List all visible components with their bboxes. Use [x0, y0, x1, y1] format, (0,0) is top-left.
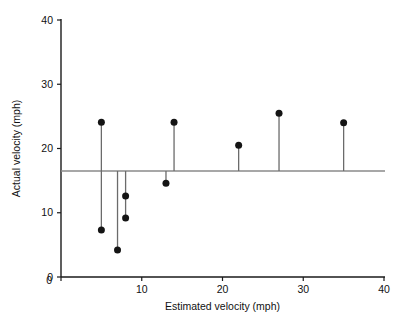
- x-axis-title: Estimated velocity (mph): [165, 300, 280, 312]
- y-axis-title: Actual velocity (mph): [10, 100, 22, 197]
- x-axis-tick-label: 30: [297, 283, 309, 295]
- y-axis-tick-label: 20: [41, 142, 53, 154]
- data-point: [171, 119, 178, 126]
- data-point: [235, 142, 242, 149]
- data-point-markers: [98, 110, 347, 254]
- data-point: [98, 119, 105, 126]
- data-point: [276, 110, 283, 117]
- x-axis-tick-label: 10: [136, 283, 148, 295]
- chart-figure: 010203040 010203040 Estimated velocity (…: [0, 0, 404, 328]
- stem-lines: [101, 113, 343, 250]
- x-axis-tick-label: 40: [378, 283, 390, 295]
- data-point: [122, 214, 129, 221]
- y-axis-tick-label: 30: [41, 78, 53, 90]
- data-point: [340, 119, 347, 126]
- scatter-plot-svg: 010203040 010203040 Estimated velocity (…: [0, 0, 404, 328]
- y-axis-tick-label: 40: [41, 14, 53, 26]
- plot-group: 010203040 010203040 Estimated velocity (…: [10, 14, 390, 313]
- x-axis-tick-label: 20: [217, 283, 229, 295]
- data-point: [122, 193, 129, 200]
- y-axis-tick-labels: 010203040: [41, 14, 53, 283]
- y-axis-tick-label: 10: [41, 206, 53, 218]
- data-point: [98, 227, 105, 234]
- x-axis-tick-label: 0: [46, 274, 52, 286]
- data-point: [114, 247, 121, 254]
- data-point: [162, 180, 169, 187]
